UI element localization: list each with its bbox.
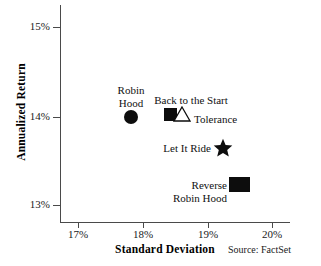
x-tick-label-17: 17% [58,228,98,240]
y-axis-line [60,5,61,223]
x-axis-title: Standard Deviation [85,243,245,255]
point-label-back-to-the-start: Back to the Start [139,94,243,107]
point-label-tolerance: Tolerance [194,113,264,126]
scatter-chart: 15% 14% 13% 17% 18% 19% 20% Annualized R… [0,0,321,266]
data-point-tolerance [173,106,191,122]
y-axis-title: Annualized Return [15,47,27,177]
point-label-let-it-ride: Let It Ride [145,142,211,155]
y-tick-label-13: 13% [18,199,50,210]
triangle-icon [173,106,191,122]
data-point-robin-hood [124,110,138,124]
point-label-reverse-robin-hood: Reverse Robin Hood [155,179,227,204]
y-tick-mark-13 [53,205,60,206]
x-tick-label-18: 18% [123,228,163,240]
star-icon [213,138,233,158]
y-tick-label-15: 15% [18,21,50,32]
x-tick-label-20: 20% [252,228,292,240]
data-point-reverse-robin-hood [229,177,250,192]
y-tick-mark-15 [53,27,60,28]
y-tick-mark-14 [53,117,60,118]
x-tick-label-19: 19% [188,228,228,240]
x-axis-line [60,222,290,223]
source-note: Source: FactSet [228,244,321,255]
data-point-let-it-ride [213,138,233,158]
